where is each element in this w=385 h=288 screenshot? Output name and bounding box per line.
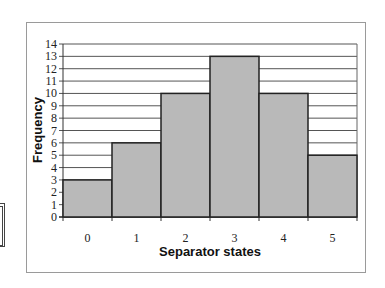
y-tick-label: 2 [51, 185, 57, 199]
y-tick-label: 7 [51, 124, 57, 138]
bars [63, 56, 357, 217]
x-tick-label: 3 [232, 231, 238, 245]
x-axis-title: Separator states [159, 244, 261, 259]
y-tick-label: 5 [51, 148, 57, 162]
x-axis-ticks: 012345 [63, 217, 357, 245]
y-tick-label: 11 [45, 74, 57, 88]
histogram-bar [210, 56, 259, 217]
histogram-bar [63, 180, 112, 217]
x-tick-label: 4 [281, 231, 287, 245]
y-tick-label: 12 [45, 62, 57, 76]
y-tick-label: 1 [51, 198, 57, 212]
x-tick-label: 0 [85, 231, 91, 245]
x-tick-label: 1 [134, 231, 140, 245]
x-tick-label: 2 [183, 231, 189, 245]
y-tick-label: 10 [45, 86, 57, 100]
y-axis-title: Frequency [30, 96, 45, 163]
histogram-bar [308, 155, 357, 217]
y-tick-label: 13 [45, 49, 57, 63]
y-tick-label: 6 [51, 136, 57, 150]
histogram-bar [161, 93, 210, 217]
histogram-chart: 01234567891011121314 012345 Separator st… [0, 0, 385, 288]
y-tick-label: 14 [45, 37, 57, 51]
y-tick-label: 9 [51, 99, 57, 113]
y-axis-ticks: 01234567891011121314 [45, 37, 57, 224]
x-tick-label: 5 [330, 231, 336, 245]
y-tick-label: 8 [51, 111, 57, 125]
y-tick-label: 4 [51, 161, 57, 175]
y-tick-label: 0 [51, 210, 57, 224]
y-tick-label: 3 [51, 173, 57, 187]
histogram-bar [112, 143, 161, 217]
histogram-bar [259, 93, 308, 217]
